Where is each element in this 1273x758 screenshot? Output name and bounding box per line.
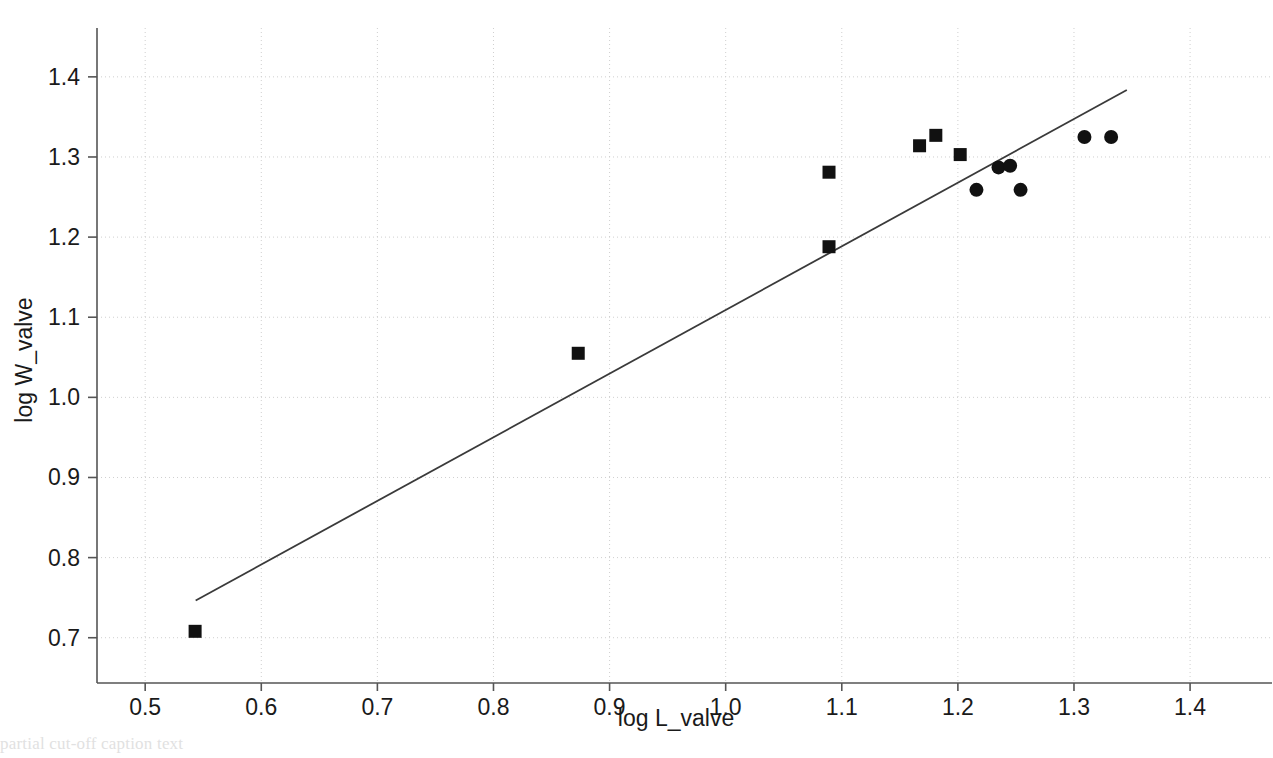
axis-ticks <box>88 77 1190 691</box>
data-point-circle <box>1077 130 1091 144</box>
x-tick-label: 1.1 <box>826 694 858 720</box>
x-tick-label: 1.2 <box>942 694 974 720</box>
data-point-square <box>572 347 585 360</box>
caption-fragment: partial cut-off caption text <box>0 734 1273 758</box>
figure-canvas: 0.50.60.70.80.91.01.11.21.31.40.70.80.91… <box>0 0 1273 758</box>
grid-layer <box>97 28 1272 683</box>
x-tick-label: 0.7 <box>361 694 393 720</box>
y-tick-label: 1.4 <box>48 64 80 90</box>
x-tick-label: 0.6 <box>245 694 277 720</box>
data-point-square <box>189 625 202 638</box>
data-point-square <box>913 139 926 152</box>
regression-line <box>196 90 1127 600</box>
axis-titles: log L_valve log W_valve <box>11 297 734 731</box>
data-point-square <box>823 240 836 253</box>
x-tick-label: 1.4 <box>1174 694 1206 720</box>
x-axis-title: log L_valve <box>618 705 734 731</box>
x-tick-label: 0.8 <box>477 694 509 720</box>
scatter-plot: 0.50.60.70.80.91.01.11.21.31.40.70.80.91… <box>0 0 1273 758</box>
y-tick-label: 0.9 <box>48 464 80 490</box>
data-point-square <box>929 129 942 142</box>
y-tick-label: 1.1 <box>48 304 80 330</box>
data-point-circle <box>1014 183 1028 197</box>
plot-frame <box>97 28 1272 683</box>
data-point-square <box>954 148 967 161</box>
data-point-circle <box>969 183 983 197</box>
data-point-circle <box>1104 130 1118 144</box>
x-tick-label: 1.3 <box>1058 694 1090 720</box>
data-point-circle <box>1003 159 1017 173</box>
data-markers <box>189 129 1119 638</box>
axis-tick-labels: 0.50.60.70.80.91.01.11.21.31.40.70.80.91… <box>48 64 1206 720</box>
y-tick-label: 1.2 <box>48 224 80 250</box>
y-tick-label: 0.7 <box>48 625 80 651</box>
regression-line-path <box>196 90 1127 600</box>
data-point-square <box>823 166 836 179</box>
x-tick-label: 0.5 <box>129 694 161 720</box>
y-tick-label: 1.3 <box>48 144 80 170</box>
y-axis-title: log W_valve <box>11 297 37 422</box>
y-tick-label: 1.0 <box>48 384 80 410</box>
y-tick-label: 0.8 <box>48 545 80 571</box>
